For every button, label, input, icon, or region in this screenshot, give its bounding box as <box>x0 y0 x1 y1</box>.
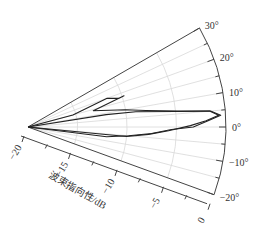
polar-chart: −20°−10°0°10°20°30° −20−15−10−50 波束指向性/d… <box>0 0 259 247</box>
angular-tick-label: 20° <box>220 52 234 63</box>
angular-tick <box>207 59 214 61</box>
radial-tick-labels: −20−15−10−50 <box>6 143 207 225</box>
sector-edge-lower <box>28 127 214 195</box>
radial-tick-label: 0 <box>195 215 207 225</box>
radial-tick-label: −10 <box>99 177 116 196</box>
angular-tick-label: −20° <box>220 192 240 203</box>
beam-curve-inner <box>28 111 219 136</box>
angular-tick <box>207 192 214 194</box>
radial-tick-label: −20 <box>6 143 23 162</box>
angular-tick <box>204 43 208 45</box>
angular-tick-label: 10° <box>229 87 243 98</box>
angular-tick <box>215 177 219 178</box>
angular-tick-label: 0° <box>232 122 241 133</box>
radial-tick <box>208 204 210 210</box>
angular-tick <box>216 93 223 94</box>
angular-tick <box>216 160 223 161</box>
angular-tick <box>215 76 219 77</box>
radial-axis-line <box>21 136 207 204</box>
angular-tick <box>193 28 199 32</box>
angular-tick-label: 30° <box>205 20 219 31</box>
angular-tick-label: −10° <box>229 157 249 168</box>
radial-tick-label: −5 <box>147 196 162 211</box>
